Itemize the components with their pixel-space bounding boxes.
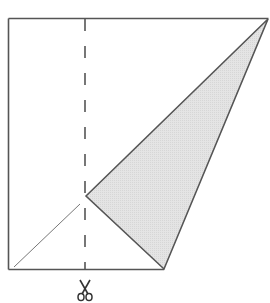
shaded-folded-triangle	[86, 19, 268, 269]
scissors-icon	[78, 280, 92, 301]
fold-guide-line	[14, 204, 80, 267]
folding-diagram	[0, 0, 270, 303]
